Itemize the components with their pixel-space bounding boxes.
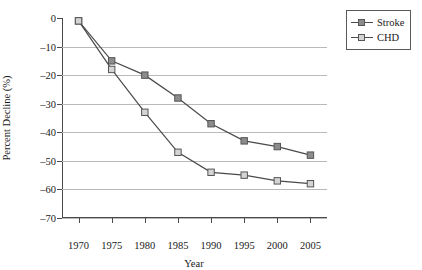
x-tick — [145, 218, 146, 223]
data-point[interactable] — [175, 95, 181, 101]
data-point[interactable] — [208, 121, 214, 127]
y-tick-label: –30 — [18, 98, 56, 109]
gridline — [62, 218, 327, 219]
x-tick — [277, 218, 278, 223]
series-line-stroke — [79, 21, 311, 155]
data-point[interactable] — [241, 138, 247, 144]
x-tick-label: 1975 — [101, 240, 122, 251]
chart-legend: Stroke CHD — [346, 10, 411, 50]
data-point[interactable] — [274, 178, 280, 184]
x-tick-label: 1985 — [167, 240, 188, 251]
legend-marker-chd-icon — [351, 32, 373, 43]
x-tick — [178, 218, 179, 223]
x-tick — [79, 218, 80, 223]
x-tick-label: 1980 — [134, 240, 155, 251]
y-tick-label: –50 — [18, 155, 56, 166]
plot-area: 19701975198019851990199520002005 Percent… — [62, 18, 327, 218]
y-tick-label: –20 — [18, 70, 56, 81]
x-tick — [310, 218, 311, 223]
x-tick-label: 2005 — [300, 240, 321, 251]
legend-label-stroke: Stroke — [377, 17, 404, 28]
x-tick — [211, 218, 212, 223]
data-point[interactable] — [75, 18, 81, 24]
data-point[interactable] — [307, 152, 313, 158]
legend-item-chd[interactable]: CHD — [351, 30, 404, 45]
x-tick-label: 1970 — [68, 240, 89, 251]
y-tick — [57, 218, 62, 219]
x-axis-title: Year — [184, 258, 203, 269]
series-line-chd — [79, 21, 311, 184]
x-tick-label: 1990 — [201, 240, 222, 251]
x-tick-label: 2000 — [267, 240, 288, 251]
x-tick-label: 1995 — [234, 240, 255, 251]
data-point[interactable] — [142, 109, 148, 115]
data-point[interactable] — [108, 58, 114, 64]
y-tick-label: –40 — [18, 127, 56, 138]
y-tick-label: –70 — [18, 213, 56, 224]
data-point[interactable] — [274, 143, 280, 149]
legend-label-chd: CHD — [377, 32, 399, 43]
data-point[interactable] — [307, 181, 313, 187]
data-point[interactable] — [142, 72, 148, 78]
data-point[interactable] — [175, 149, 181, 155]
legend-marker-stroke-icon — [351, 17, 373, 28]
y-tick-label: 0 — [18, 13, 56, 24]
data-point[interactable] — [108, 66, 114, 72]
data-point[interactable] — [241, 172, 247, 178]
x-tick — [244, 218, 245, 223]
data-series-layer — [62, 18, 327, 218]
data-point[interactable] — [208, 169, 214, 175]
x-tick — [112, 218, 113, 223]
legend-item-stroke[interactable]: Stroke — [351, 15, 404, 30]
y-tick-label: –60 — [18, 184, 56, 195]
y-axis-title: Percent Decline (%) — [1, 38, 12, 198]
chart-figure: 0–10–20–30–40–50–60–70 19701975198019851… — [0, 0, 422, 270]
y-tick-label: –10 — [18, 41, 56, 52]
